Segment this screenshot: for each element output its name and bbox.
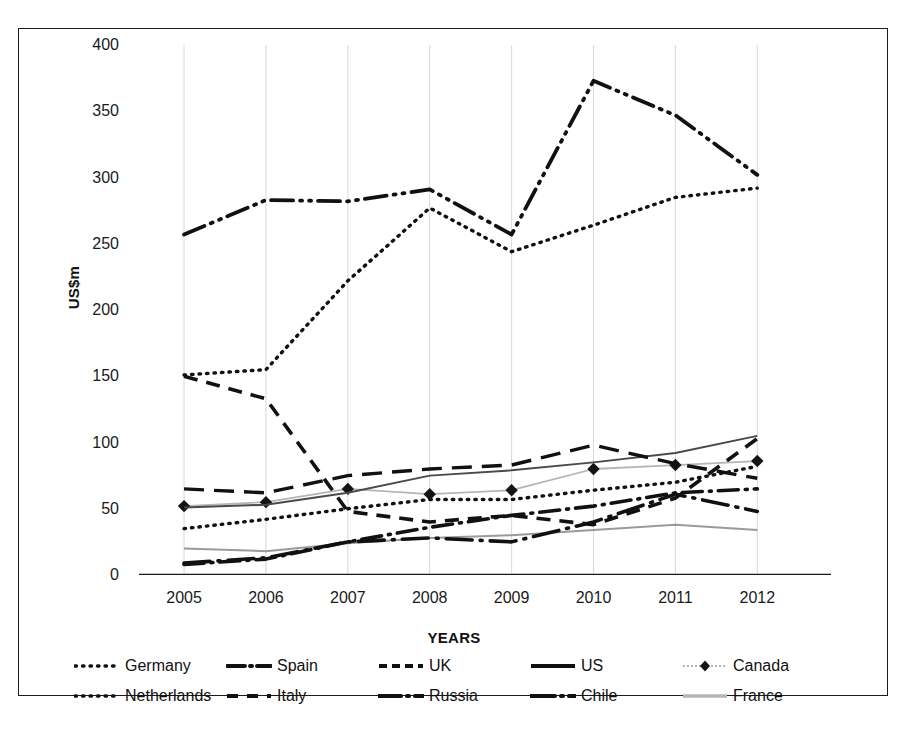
series-netherlands [184, 188, 757, 375]
y-axis-tick: 300 [73, 170, 119, 186]
legend-item-us[interactable]: US [530, 657, 682, 675]
legend-swatch-marker-diamond-icon [682, 659, 728, 673]
legend-swatch-dash-dot-long-icon [530, 689, 576, 703]
plot-area [139, 45, 831, 575]
legend-label: Germany [125, 657, 191, 675]
legend-item-uk[interactable]: UK [378, 657, 530, 675]
y-axis-tick: 150 [73, 368, 119, 384]
legend-label: Chile [581, 687, 617, 705]
legend-label: Italy [277, 687, 306, 705]
y-axis-tick: 100 [73, 435, 119, 451]
legend-item-italy[interactable]: Italy [226, 687, 378, 705]
legend-item-chile[interactable]: Chile [530, 687, 682, 705]
y-axis-tick: 0 [73, 567, 119, 583]
x-axis-tick: 2009 [477, 589, 547, 607]
legend-swatch-solid-light-icon [682, 689, 728, 703]
legend-label: Netherlands [125, 687, 211, 705]
x-axis-tick: 2007 [313, 589, 383, 607]
legend-swatch-dashed-icon [378, 659, 424, 673]
series-italy [184, 445, 757, 493]
legend-label: US [581, 657, 603, 675]
legend-item-canada[interactable]: Canada [682, 657, 834, 675]
legend-label: UK [429, 657, 451, 675]
legend-item-russia[interactable]: Russia [378, 687, 530, 705]
x-axis-tick: 2010 [559, 589, 629, 607]
chart-area: US$m 050100150200250300350400 2005200620… [19, 29, 889, 629]
legend-item-france[interactable]: France [682, 687, 834, 705]
x-axis-tick: 2008 [395, 589, 465, 607]
legend-row: NetherlandsItalyRussiaChileFrance [19, 681, 889, 711]
legend-swatch-dash-long-icon [226, 689, 272, 703]
x-axis-title: YEARS [19, 629, 889, 646]
x-axis-tick: 2012 [722, 589, 792, 607]
legend-swatch-solid-icon [530, 659, 576, 673]
legend-item-germany[interactable]: Germany [74, 657, 226, 675]
line-chart-svg [139, 45, 831, 575]
y-axis-tick: 250 [73, 236, 119, 252]
y-axis-tick: 200 [73, 302, 119, 318]
series-spain [184, 81, 757, 235]
x-axis-tick: 2005 [149, 589, 219, 607]
legend-label: Spain [277, 657, 318, 675]
legend-label: Canada [733, 657, 789, 675]
y-axis-tick: 350 [73, 103, 119, 119]
chart-legend: GermanySpainUKUSCanadaNetherlandsItalyRu… [19, 651, 889, 711]
x-axis-tick: 2006 [231, 589, 301, 607]
y-axis-tick: 400 [73, 37, 119, 53]
legend-label: France [733, 687, 783, 705]
legend-item-netherlands[interactable]: Netherlands [74, 687, 226, 705]
y-axis-tick: 50 [73, 501, 119, 517]
y-axis-tick-labels: 050100150200250300350400 [67, 29, 119, 629]
x-axis-tick: 2011 [640, 589, 710, 607]
legend-item-spain[interactable]: Spain [226, 657, 378, 675]
figure-container: US$m 050100150200250300350400 2005200620… [18, 28, 888, 696]
legend-swatch-dash-dot-icon [378, 689, 424, 703]
legend-swatch-dash-dot-dot-icon [226, 659, 272, 673]
legend-label: Russia [429, 687, 478, 705]
series-france [184, 525, 757, 552]
legend-row: GermanySpainUKUSCanada [19, 651, 889, 681]
legend-swatch-dotted-icon [74, 689, 120, 703]
legend-swatch-dotted-icon [74, 659, 120, 673]
